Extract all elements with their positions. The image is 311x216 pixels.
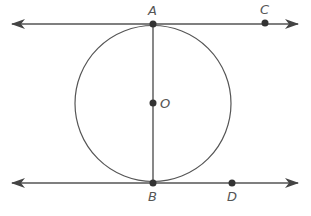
point-d [229,180,236,187]
label-a: A [147,3,157,18]
label-d: D [227,189,237,204]
point-b [150,180,157,187]
label-b: B [148,189,157,204]
geometry-diagram: A C O B D [0,0,311,216]
point-a [150,21,157,28]
point-c [262,20,269,27]
diagram-svg: A C O B D [0,0,311,216]
point-o [150,100,157,107]
label-o: O [160,96,170,111]
label-c: C [260,2,270,17]
